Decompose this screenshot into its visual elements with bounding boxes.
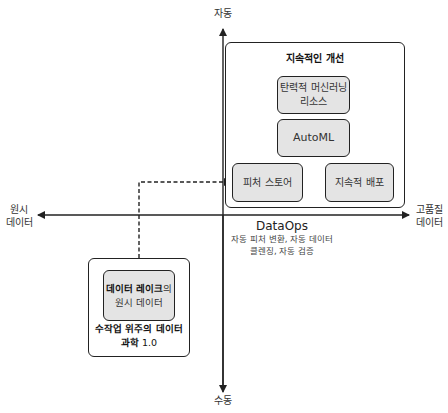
axis-label-top: 자동: [208, 7, 238, 20]
feature-store-box: 피처 스토어: [232, 163, 303, 202]
dataops-block: DataOps 자동 피처 변환, 자동 데이터 클렌징, 자동 검증: [222, 219, 342, 257]
axis-label-left: 원시데이터: [2, 203, 36, 229]
automl-box: AutoML: [277, 119, 350, 157]
elastic-ml-resources-box: 탄력적 머신러닝리소스: [277, 76, 350, 114]
dataops-title: DataOps: [222, 219, 342, 233]
dashed-connector: [139, 182, 231, 258]
data-lake-raw-data-box: 데이터 레이크의 원시 데이터: [103, 270, 175, 321]
group-caption: 수작업 위주의 데이터 과학 1.0: [89, 322, 189, 350]
axis-label-bottom: 수동: [208, 394, 238, 407]
group-title: 지속적인 개선: [226, 50, 404, 65]
continuous-deployment-box: 지속적 배포: [325, 163, 394, 202]
axis-label-right: 고품질데이터: [410, 203, 448, 229]
